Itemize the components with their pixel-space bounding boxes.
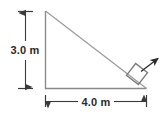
figure-canvas: 3.0 m 4.0 m bbox=[0, 0, 168, 115]
ramp-triangle bbox=[45, 11, 147, 89]
height-label: 3.0 m bbox=[10, 44, 39, 56]
triangle-hypotenuse-incline bbox=[46, 11, 147, 89]
inclined-plane-figure: 3.0 m 4.0 m bbox=[0, 0, 168, 115]
motion-arrow-up-incline bbox=[141, 59, 158, 72]
base-label: 4.0 m bbox=[81, 96, 110, 108]
base-dimension: 4.0 m bbox=[46, 95, 147, 108]
motion-arrow-shaft bbox=[141, 59, 158, 72]
height-dimension: 3.0 m bbox=[10, 12, 39, 89]
